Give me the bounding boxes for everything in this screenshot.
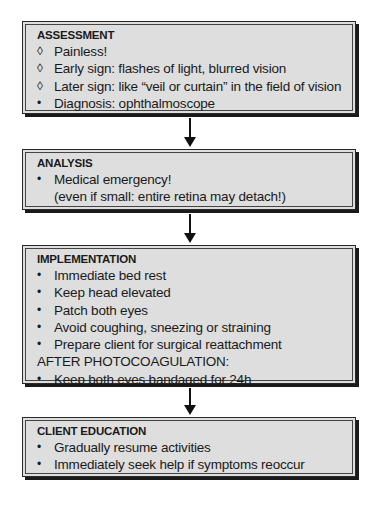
implementation-box: IMPLEMENTATION •Immediate bed rest •Keep… — [22, 245, 356, 384]
arrow-line — [189, 388, 191, 406]
box-title: CLIENT EDUCATION — [37, 424, 355, 439]
bullet-icon: • — [37, 336, 54, 353]
item-text: Keep both eyes bandaged for 24h — [54, 371, 251, 388]
diamond-bullet-icon: ◊ — [37, 78, 54, 95]
item-text: Immediate bed rest — [54, 267, 166, 284]
item-text: Early sign: flashes of light, blurred vi… — [54, 60, 286, 77]
item-text: Medical emergency! — [54, 171, 171, 188]
bullet-icon: • — [37, 284, 54, 301]
list-item: ◊Painless! — [37, 43, 355, 60]
box-title: IMPLEMENTATION — [37, 252, 355, 267]
item-text: Prepare client for surgical reattachment — [54, 336, 282, 353]
list-item: •Diagnosis: ophthalmoscope — [37, 95, 355, 112]
arrow-down-icon — [184, 405, 196, 415]
item-text: Gradually resume activities — [54, 439, 211, 456]
list-item: •Immediate bed rest — [37, 267, 355, 284]
list-item: ◊Early sign: flashes of light, blurred v… — [37, 60, 355, 77]
box-title: ANALYSIS — [37, 156, 355, 171]
list-item: •Immediately seek help if symptoms reocc… — [37, 456, 355, 473]
item-text: Avoid coughing, sneezing or straining — [54, 319, 271, 336]
list-item: •Patch both eyes — [37, 302, 355, 319]
analysis-box: ANALYSIS •Medical emergency! (even if sm… — [22, 149, 356, 210]
item-text: Immediately seek help if symptoms reoccu… — [54, 456, 305, 473]
subheading: AFTER PHOTOCOAGULATION: — [37, 353, 355, 370]
arrow-down-icon — [184, 137, 196, 147]
client-education-box: CLIENT EDUCATION •Gradually resume activ… — [22, 417, 356, 477]
bullet-icon: • — [37, 456, 54, 473]
list-item: •Gradually resume activities — [37, 439, 355, 456]
bullet-icon: • — [37, 267, 54, 284]
list-item: •Avoid coughing, sneezing or straining — [37, 319, 355, 336]
arrow-line — [189, 214, 191, 234]
list-item: ◊Later sign: like “veil or curtain” in t… — [37, 78, 355, 95]
bullet-icon: • — [37, 319, 54, 336]
item-text: Diagnosis: ophthalmoscope — [54, 95, 215, 112]
bullet-icon: • — [37, 439, 54, 456]
item-text: Later sign: like “veil or curtain” in th… — [54, 78, 341, 95]
bullet-icon: • — [37, 171, 54, 188]
list-item: •Keep both eyes bandaged for 24h — [37, 371, 355, 388]
item-text: Painless! — [54, 43, 107, 60]
continuation-text: (even if small: entire retina may detach… — [37, 188, 355, 205]
bullet-icon: • — [37, 95, 54, 112]
bullet-icon: • — [37, 302, 54, 319]
assessment-box: ASSESSMENT ◊Painless! ◊Early sign: flash… — [22, 21, 356, 114]
list-item: •Medical emergency! — [37, 171, 355, 188]
diamond-bullet-icon: ◊ — [37, 60, 54, 77]
item-text: Patch both eyes — [54, 302, 148, 319]
list-item: •Keep head elevated — [37, 284, 355, 301]
arrow-line — [189, 118, 191, 138]
bullet-icon: • — [37, 371, 54, 388]
diamond-bullet-icon: ◊ — [37, 43, 54, 60]
list-item: •Prepare client for surgical reattachmen… — [37, 336, 355, 353]
arrow-down-icon — [184, 233, 196, 243]
box-title: ASSESSMENT — [37, 28, 355, 43]
item-text: Keep head elevated — [54, 284, 171, 301]
